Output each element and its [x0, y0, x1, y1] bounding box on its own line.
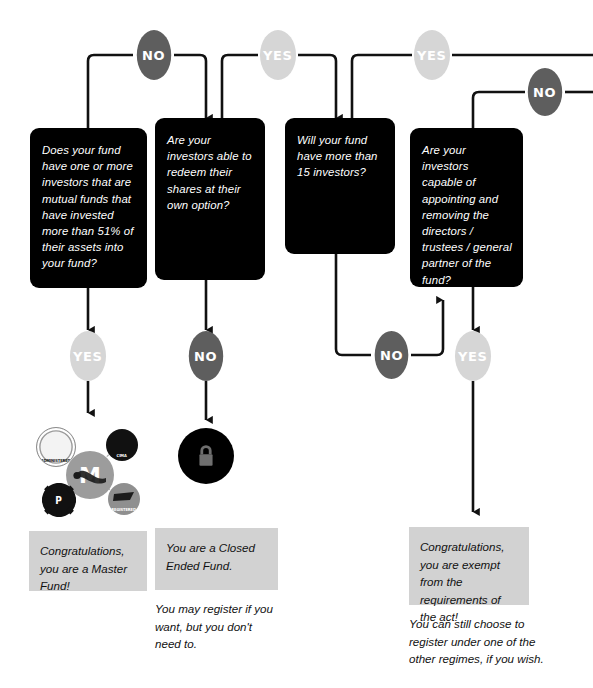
portfolio-glyph-icon [108, 483, 140, 515]
gear-teeth-icon [42, 483, 76, 517]
branch-circle-q3-no[interactable]: NO [375, 331, 409, 379]
wire-q3-no-left [336, 254, 371, 355]
wire-q3-no-up-to-q4 [411, 300, 443, 355]
question-box-2[interactable]: Are your investors able to redeem their … [155, 118, 265, 280]
outcome-master-fund-text: Congratulations, you are a Master Fund! [40, 544, 127, 592]
outcome-note-exempt: You can still choose to register under o… [409, 615, 544, 668]
outcome-box-closed-ended: You are a Closed Ended Fund. [155, 528, 278, 590]
branch-circle-top-yes-mid[interactable]: YES [260, 30, 296, 80]
wire-q4-top-right [473, 92, 525, 128]
lock-icon [191, 441, 221, 471]
administered-icon: ADMINISTERED [36, 427, 76, 467]
question-box-4-text: Are your investors capable of appointing… [422, 144, 512, 286]
outcome-closed-ended-text: You are a Closed Ended Fund. [166, 541, 255, 572]
question-box-1-text: Does your fund have one or more investor… [42, 144, 134, 269]
wire-yes-to-q3 [298, 55, 336, 118]
master-fund-hub-icon: M ADMINISTERED CIMA P [24, 417, 152, 523]
question-box-1[interactable]: Does your fund have one or more investor… [30, 128, 147, 288]
branch-circle-top-yes-right[interactable]: YES [414, 30, 450, 80]
flowchart-canvas: NO YES YES NO Does your fund have one or… [0, 0, 593, 688]
wire-no-to-q2 [174, 55, 206, 118]
branch-circle-q2-no[interactable]: NO [189, 331, 223, 381]
branch-circle-q4-yes[interactable]: YES [455, 331, 491, 381]
wire-q1-top-left [88, 55, 133, 128]
outcome-box-master-fund: Congratulations, you are a Master Fund! [29, 531, 147, 591]
outcome-box-exempt: Congratulations, you are exempt from the… [409, 527, 529, 605]
branch-circle-q1-yes[interactable]: YES [70, 331, 106, 381]
branch-circle-top-no[interactable]: NO [137, 30, 171, 80]
question-box-3[interactable]: Will your fund have more than 15 investo… [285, 118, 395, 254]
outcome-note-closed-ended: You may register if you want, but you do… [155, 600, 280, 653]
question-box-4[interactable]: Are your investors capable of appointing… [410, 128, 523, 287]
outcome-exempt-text: Congratulations, you are exempt from the… [420, 540, 504, 623]
question-box-2-text: Are your investors able to redeem their … [167, 134, 252, 211]
question-box-3-text: Will your fund have more than 15 investo… [297, 134, 378, 178]
closed-ended-lock-badge [178, 428, 234, 484]
branch-circle-top-no-right[interactable]: NO [528, 68, 562, 116]
cima-icon: CIMA [106, 429, 138, 461]
